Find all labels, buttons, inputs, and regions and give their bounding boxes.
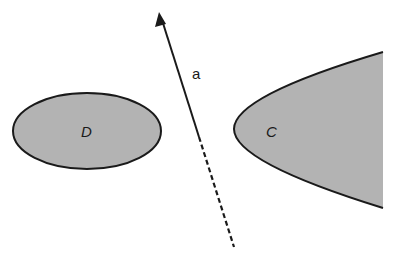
label-a: a [192, 65, 201, 82]
shape-c: C [234, 52, 383, 208]
diagram-canvas: D C a [0, 0, 393, 262]
vector-a-dashed [199, 137, 234, 247]
label-d: D [81, 123, 92, 140]
shape-d: D [13, 93, 161, 169]
region-c-fill [234, 52, 383, 208]
label-c: C [266, 123, 277, 140]
vector-a: a [155, 12, 234, 247]
